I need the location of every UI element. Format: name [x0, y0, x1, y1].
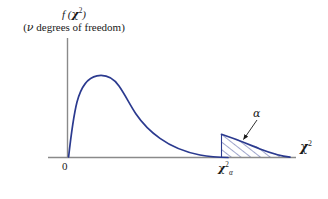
y-axis-label-line-1: f (χ2) — [8, 7, 140, 21]
y-axis-label: f (χ2) (ν degrees of freedom) — [8, 7, 140, 34]
axes — [48, 38, 296, 158]
alpha-label: α — [253, 108, 260, 120]
y-axis-label-line-2: (ν degrees of freedom) — [8, 21, 140, 34]
exponent: 2 — [225, 161, 229, 169]
subscript-alpha: α — [229, 169, 233, 177]
origin-tick-label: 0 — [62, 160, 68, 172]
exponent: 2 — [308, 139, 312, 148]
x-axis-label: χ2 — [300, 140, 312, 154]
chi-square-density-curve — [69, 75, 228, 157]
alpha-pointer-arrow — [244, 120, 258, 140]
chi-symbol: χ — [300, 140, 308, 154]
nu-symbol: ν — [27, 21, 34, 34]
chi-symbol: χ — [71, 8, 78, 21]
critical-value-tick-label: χ2α — [218, 161, 233, 177]
